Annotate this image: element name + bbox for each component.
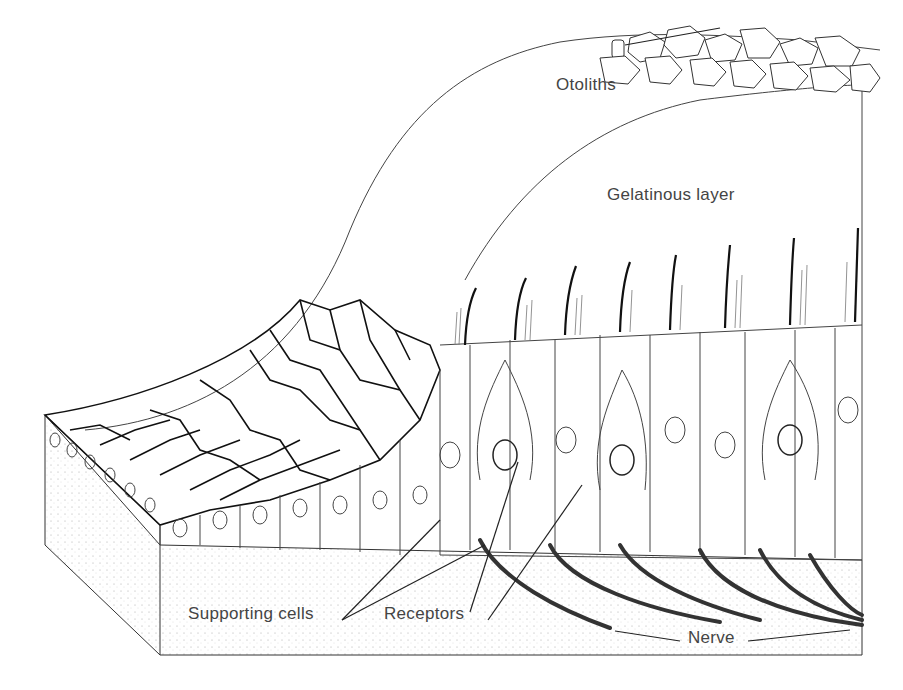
label-receptors: Receptors [384,604,464,624]
label-otoliths: Otoliths [556,75,616,95]
gelatinous-layer-inner-curve [465,85,860,280]
gelatinous-layer-outline [85,35,880,430]
leader-lines [342,28,850,641]
label-gelatinous-layer: Gelatinous layer [607,185,735,205]
otolith-organ-diagram: Otoliths Gelatinous layer Supporting cel… [0,0,903,690]
sensory-epithelium [440,325,862,560]
otoliths-crystals [600,26,880,92]
label-nerve: Nerve [688,628,735,648]
illustration [0,0,903,690]
label-supporting-cells: Supporting cells [188,604,314,624]
stereocilia [455,262,847,345]
kinocilia [465,228,858,345]
